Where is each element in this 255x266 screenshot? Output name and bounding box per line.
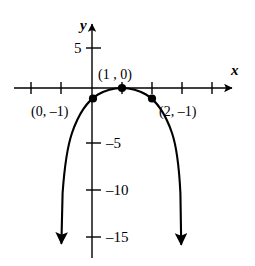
y-axis-label: y — [80, 18, 87, 33]
y-axis-group — [86, 24, 101, 258]
point-left-root — [89, 94, 97, 102]
plot-canvas — [0, 0, 255, 266]
y-tick-label-neg5: –5 — [106, 136, 121, 151]
point-right-root — [148, 94, 156, 102]
point-label-left-root: (0, –1) — [31, 105, 68, 119]
y-tick-label-5: 5 — [74, 41, 82, 56]
y-tick-label-neg15: –15 — [106, 230, 129, 245]
point-label-right-root: (2, –1) — [159, 105, 196, 119]
parabola-figure: y x 5 –5 –10 –15 (0, –1) (1 , 0) (2, –1) — [0, 0, 255, 266]
x-axis-label: x — [231, 63, 239, 78]
point-vertex — [118, 84, 126, 92]
point-label-vertex: (1 , 0) — [98, 68, 132, 82]
y-tick-label-neg10: –10 — [106, 183, 129, 198]
